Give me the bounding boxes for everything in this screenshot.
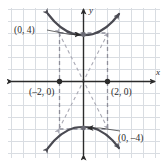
coordinate-plane-svg: (0, 4) (0, –4) (–2, 0) (2, 0) x y — [0, 0, 168, 165]
label-top-vertex: (0, 4) — [14, 25, 35, 36]
point-bottom-vertex — [81, 126, 86, 131]
label-bottom-vertex: (0, –4) — [118, 133, 143, 144]
point-left-covertex — [57, 79, 62, 84]
hyperbola-graph-figure: (0, 4) (0, –4) (–2, 0) (2, 0) x y — [0, 0, 168, 165]
point-right-covertex — [105, 79, 110, 84]
x-axis-label: x — [155, 67, 160, 77]
label-left-covertex: (–2, 0) — [29, 87, 54, 98]
label-right-covertex: (2, 0) — [111, 87, 132, 98]
y-axis-label: y — [88, 5, 93, 15]
point-top-vertex — [81, 32, 86, 37]
